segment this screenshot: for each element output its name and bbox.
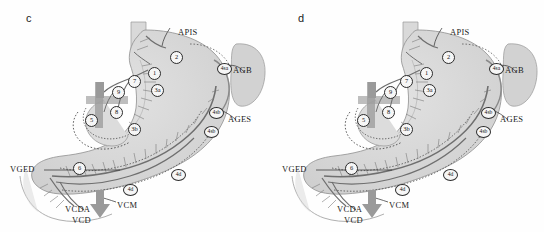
label-vged-c: VGED xyxy=(10,165,35,174)
node-7-c: 7 xyxy=(128,75,141,88)
label-apis-d: APIS xyxy=(450,28,470,37)
label-apis-c: APIS xyxy=(178,28,198,37)
node-2-c: 2 xyxy=(170,51,183,64)
node-5-c: 5 xyxy=(85,114,98,127)
label-agb-d: AGB xyxy=(505,66,524,75)
node-8-c: 8 xyxy=(110,106,123,119)
label-agb-c: AGB xyxy=(233,66,252,75)
label-vcd-d: VCD xyxy=(344,216,363,225)
node-4d-upper-d: 4d xyxy=(443,169,458,181)
node-9-d: 9 xyxy=(384,86,397,99)
flow-arrow-down xyxy=(90,190,110,218)
node-4sb-lower-d: 4sb xyxy=(476,126,491,138)
node-9-c: 9 xyxy=(112,86,125,99)
node-4d-upper-c: 4d xyxy=(171,169,186,181)
node-3b-c: 3b xyxy=(128,123,141,136)
node-4d-lower-c: 4d xyxy=(123,184,138,196)
label-vcm-c: VCM xyxy=(117,201,137,210)
stomach-shape xyxy=(304,30,502,194)
node-4sb-upper-d: 4sb xyxy=(481,107,496,119)
node-4sa-c: 4sa xyxy=(217,63,232,75)
stomach-shape xyxy=(32,30,230,194)
node-7-d: 7 xyxy=(400,75,413,88)
node-5-d: 5 xyxy=(357,114,370,127)
node-3b-d: 3b xyxy=(400,123,413,136)
node-4sb-upper-c: 4sb xyxy=(209,107,224,119)
label-vcm-d: VCM xyxy=(389,201,409,210)
node-2-d: 2 xyxy=(442,51,455,64)
label-vcda-d: VCDA xyxy=(337,205,362,214)
node-6-d: 6 xyxy=(345,162,358,175)
node-8-d: 8 xyxy=(382,106,395,119)
label-ages-d: AGES xyxy=(500,115,523,124)
node-4d-lower-d: 4d xyxy=(395,184,410,196)
flow-arrow-stub xyxy=(96,82,104,98)
node-4sb-lower-c: 4sb xyxy=(204,126,219,138)
label-vged-d: VGED xyxy=(282,165,307,174)
label-vcda-c: VCDA xyxy=(65,205,90,214)
panel-d: d xyxy=(272,0,544,232)
node-3a-d: 3a xyxy=(423,84,436,97)
node-1-c: 1 xyxy=(148,67,161,80)
node-1-d: 1 xyxy=(420,67,433,80)
figure-root: c xyxy=(0,0,544,232)
label-vcd-c: VCD xyxy=(72,216,91,225)
flow-arrow-stub xyxy=(368,82,376,98)
node-4sa-d: 4sa xyxy=(489,63,504,75)
node-3a-c: 3a xyxy=(151,84,164,97)
flow-arrow-down xyxy=(362,190,382,218)
node-6-c: 6 xyxy=(73,162,86,175)
label-ages-c: AGES xyxy=(228,115,251,124)
panel-c: c xyxy=(0,0,272,232)
